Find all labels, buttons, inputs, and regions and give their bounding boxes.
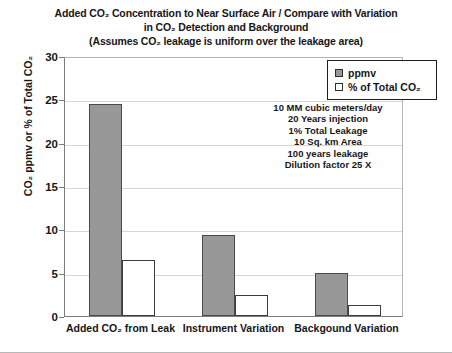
legend-item-percent-total: % of Total CO₂ bbox=[335, 80, 430, 93]
y-tick-label: 30 bbox=[14, 51, 58, 63]
chart-title-line-2: in CO₂ Detection and Background bbox=[0, 20, 452, 34]
bar-chart-figure: Added CO₂ Concentration to Near Surface … bbox=[0, 0, 452, 353]
y-tick-label: 5 bbox=[14, 268, 58, 280]
legend-label-percent-total: % of Total CO₂ bbox=[348, 81, 421, 93]
y-tick-label: 20 bbox=[14, 138, 58, 150]
annotation-line: 10 MM cubic meters/day bbox=[248, 102, 408, 113]
annotation-line: 100 years leakage bbox=[248, 148, 408, 159]
bar-ppmv bbox=[89, 104, 122, 316]
y-tick-mark bbox=[59, 317, 64, 318]
x-axis-labels: Added CO₂ from LeakInstrument VariationB… bbox=[64, 322, 403, 342]
chart-title-line-3: (Assumes CO₂ leakage is uniform over the… bbox=[0, 34, 452, 48]
chart-legend: ppmv % of Total CO₂ bbox=[327, 60, 437, 100]
y-tick-label: 10 bbox=[14, 224, 58, 236]
legend-label-ppmv: ppmv bbox=[348, 67, 376, 79]
bar-ppmv bbox=[315, 273, 348, 316]
annotation-line: 1% Total Leakage bbox=[248, 125, 408, 136]
chart-title-line-1: Added CO₂ Concentration to Near Surface … bbox=[0, 6, 452, 20]
chart-title: Added CO₂ Concentration to Near Surface … bbox=[0, 6, 452, 48]
bar-percent-total bbox=[122, 260, 155, 316]
x-axis-category-label: Backgound Variation bbox=[277, 322, 417, 334]
y-tick-label: 25 bbox=[14, 94, 58, 106]
bar-percent-total bbox=[348, 305, 381, 316]
legend-swatch-ppmv-icon bbox=[335, 69, 343, 77]
legend-swatch-percent-total-icon bbox=[335, 83, 343, 91]
annotation-line: 20 Years injection bbox=[248, 113, 408, 124]
bar-ppmv bbox=[202, 235, 235, 316]
annotation-line: Dilution factor 25 X bbox=[248, 159, 408, 170]
assumptions-annotation: 10 MM cubic meters/day20 Years injection… bbox=[248, 102, 408, 170]
annotation-line: 10 Sq. km Area bbox=[248, 136, 408, 147]
bar-percent-total bbox=[235, 295, 268, 316]
legend-item-ppmv: ppmv bbox=[335, 66, 430, 79]
y-tick-label: 15 bbox=[14, 181, 58, 193]
